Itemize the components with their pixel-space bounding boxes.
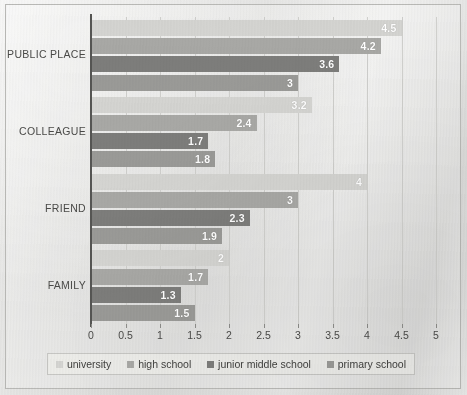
legend-label: junior middle school [218, 358, 311, 370]
bar-row: 3 [91, 192, 436, 208]
bar-university-public-place: 4.5 [91, 20, 402, 36]
x-tick-mark [91, 324, 92, 328]
legend-swatch-icon [207, 361, 214, 368]
x-tick-label: 0.5 [118, 329, 133, 341]
legend-swatch-icon [327, 361, 334, 368]
bar-value-label: 2.4 [236, 117, 251, 129]
x-tick-label: 4.5 [394, 329, 409, 341]
bar-value-label: 4 [356, 176, 362, 188]
x-tick-mark [436, 324, 437, 328]
bar-high-school-colleague: 2.4 [91, 115, 257, 131]
bar-value-label: 4.2 [361, 40, 376, 52]
gridline [436, 17, 437, 324]
bar-value-label: 1.7 [188, 271, 203, 283]
bar-value-label: 1.5 [174, 307, 189, 319]
legend-item-high-school[interactable]: high school [127, 358, 191, 370]
bar-row: 3.6 [91, 56, 436, 72]
bar-value-label: 1.8 [195, 153, 210, 165]
legend-label: primary school [338, 358, 406, 370]
bar-value-label: 1.7 [188, 135, 203, 147]
category-label-colleague: COLLEAGUE [2, 125, 86, 137]
bar-row: 4.5 [91, 20, 436, 36]
legend-swatch-icon [127, 361, 134, 368]
x-tick-label: 3 [295, 329, 301, 341]
bar-value-label: 3 [287, 77, 293, 89]
x-tick-mark [195, 324, 196, 328]
y-axis-line [90, 14, 92, 327]
legend-label: university [67, 358, 111, 370]
bar-row: 1.8 [91, 151, 436, 167]
bar-value-label: 2 [218, 252, 224, 264]
x-tick-label: 0 [88, 329, 94, 341]
bar-value-label: 3 [287, 194, 293, 206]
bar-value-label: 2.3 [229, 212, 244, 224]
x-tick-mark [367, 324, 368, 328]
chart-figure: 4.54.23.633.22.41.71.8432.31.921.71.31.5… [0, 0, 467, 395]
bar-junior-middle-school-colleague: 1.7 [91, 133, 208, 149]
category-label-friend: FRIEND [2, 202, 86, 214]
legend-item-university[interactable]: university [56, 358, 111, 370]
bar-value-label: 4.5 [381, 22, 396, 34]
bar-junior-middle-school-friend: 2.3 [91, 210, 250, 226]
category-label-family: FAMILY [2, 279, 86, 291]
bar-high-school-family: 1.7 [91, 269, 208, 285]
bar-row: 1.7 [91, 269, 436, 285]
bar-row: 2.4 [91, 115, 436, 131]
bar-university-family: 2 [91, 250, 229, 266]
bar-row: 1.3 [91, 287, 436, 303]
bar-value-label: 3.2 [292, 99, 307, 111]
category-label-public-place: PUBLIC PLACE [2, 48, 86, 60]
x-tick-label: 1 [157, 329, 163, 341]
bar-university-friend: 4 [91, 174, 367, 190]
bar-row: 3 [91, 75, 436, 91]
bar-row: 1.9 [91, 228, 436, 244]
bar-row: 1.7 [91, 133, 436, 149]
x-tick-mark [126, 324, 127, 328]
legend-label: high school [138, 358, 191, 370]
x-tick-mark [402, 324, 403, 328]
x-tick-label: 2 [226, 329, 232, 341]
plot-area: 4.54.23.633.22.41.71.8432.31.921.71.31.5 [91, 17, 436, 324]
bar-high-school-friend: 3 [91, 192, 298, 208]
bar-primary-school-public-place: 3 [91, 75, 298, 91]
chart-legend: universityhigh schooljunior middle schoo… [47, 353, 415, 375]
x-axis: 00.511.522.533.544.55 [91, 324, 436, 344]
bar-row: 4.2 [91, 38, 436, 54]
x-tick-mark [264, 324, 265, 328]
legend-swatch-icon [56, 361, 63, 368]
x-tick-label: 4 [364, 329, 370, 341]
bar-junior-middle-school-public-place: 3.6 [91, 56, 339, 72]
legend-item-junior-middle-school[interactable]: junior middle school [207, 358, 311, 370]
bar-row: 2 [91, 250, 436, 266]
bar-high-school-public-place: 4.2 [91, 38, 381, 54]
bar-value-label: 1.9 [202, 230, 217, 242]
x-tick-label: 5 [433, 329, 439, 341]
bar-row: 2.3 [91, 210, 436, 226]
x-tick-label: 3.5 [325, 329, 340, 341]
x-tick-mark [229, 324, 230, 328]
bar-primary-school-colleague: 1.8 [91, 151, 215, 167]
bar-junior-middle-school-family: 1.3 [91, 287, 181, 303]
bar-primary-school-friend: 1.9 [91, 228, 222, 244]
legend-item-primary-school[interactable]: primary school [327, 358, 406, 370]
bar-value-label: 1.3 [160, 289, 175, 301]
bar-value-label: 3.6 [319, 58, 334, 70]
y-axis-category-labels: PUBLIC PLACECOLLEAGUEFRIENDFAMILY [0, 17, 86, 324]
x-tick-mark [160, 324, 161, 328]
bar-row: 4 [91, 174, 436, 190]
x-tick-mark [333, 324, 334, 328]
bar-primary-school-family: 1.5 [91, 305, 195, 321]
bar-row: 1.5 [91, 305, 436, 321]
x-tick-label: 2.5 [256, 329, 271, 341]
x-tick-label: 1.5 [187, 329, 202, 341]
bar-university-colleague: 3.2 [91, 97, 312, 113]
x-tick-mark [298, 324, 299, 328]
bar-row: 3.2 [91, 97, 436, 113]
